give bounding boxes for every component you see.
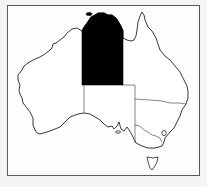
region-tasmania[interactable] [147,157,158,170]
kangaroo-island [116,131,121,133]
region-act[interactable] [162,130,166,135]
australia-map [0,0,207,187]
tiwi-islands [86,13,92,16]
region-northern-territory[interactable] [82,13,123,85]
